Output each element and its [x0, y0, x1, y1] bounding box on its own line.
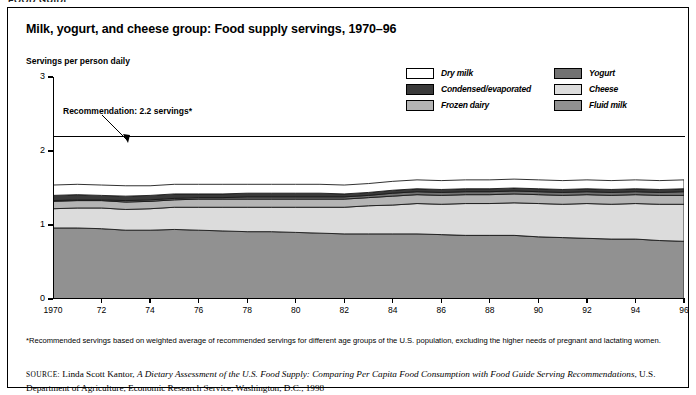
x-tick-1976 — [198, 299, 199, 303]
footnote: *Recommended servings based on weighted … — [26, 335, 676, 346]
x-tick-label-1990: 90 — [518, 305, 558, 315]
x-tick-1994 — [635, 299, 636, 303]
x-tick-label-1984: 84 — [373, 305, 413, 315]
recommendation-line — [53, 136, 685, 137]
source-author: Linda Scott Kantor, — [60, 369, 137, 379]
y-tick-label-2: 2 — [23, 145, 45, 155]
x-tick-1978 — [247, 299, 248, 303]
x-tick-label-1992: 92 — [567, 305, 607, 315]
x-axis-line — [53, 298, 685, 299]
x-tick-1990 — [538, 299, 539, 303]
y-tick-3 — [48, 76, 53, 77]
x-tick-label-1974: 74 — [130, 305, 170, 315]
x-tick-label-1972: 72 — [82, 305, 122, 315]
x-tick-label-1980: 80 — [276, 305, 316, 315]
x-tick-1980 — [295, 299, 296, 303]
x-tick-1986 — [441, 299, 442, 303]
y-tick-label-1: 1 — [23, 219, 45, 229]
x-tick-label-1988: 88 — [470, 305, 510, 315]
x-tick-1974 — [149, 299, 150, 303]
x-tick-1982 — [344, 299, 345, 303]
x-tick-1996 — [683, 299, 684, 303]
x-tick-label-1970: 1970 — [33, 305, 73, 315]
y-tick-label-0: 0 — [23, 293, 45, 303]
x-tick-label-1976: 76 — [179, 305, 219, 315]
x-tick-label-1982: 82 — [324, 305, 364, 315]
x-tick-label-1978: 78 — [227, 305, 267, 315]
x-tick-1972 — [101, 299, 102, 303]
page-title: Milk, yogurt, and cheese group: Food sup… — [26, 22, 396, 36]
source-title: A Dietary Assessment of the U.S. Food Su… — [137, 369, 635, 379]
x-tick-label-1986: 86 — [421, 305, 461, 315]
x-tick-1992 — [586, 299, 587, 303]
y-tick-2 — [48, 150, 53, 151]
x-tick-1988 — [489, 299, 490, 303]
source-prefix: source: — [26, 370, 60, 379]
y-axis-line — [53, 77, 54, 299]
y-tick-1 — [48, 224, 53, 225]
y-axis-title: Servings per person daily — [26, 56, 130, 66]
y-tick-0 — [48, 298, 53, 299]
running-head: FOOD GUIDE — [8, 0, 70, 2]
figure-frame: Milk, yogurt, and cheese group: Food sup… — [7, 7, 689, 388]
x-tick-label-1994: 94 — [615, 305, 655, 315]
recommendation-arrow-icon — [100, 113, 140, 145]
x-tick-1984 — [392, 299, 393, 303]
source-note: source: Linda Scott Kantor, A Dietary As… — [26, 368, 678, 395]
x-tick-label-1996: 96 — [664, 305, 696, 315]
y-tick-label-3: 3 — [23, 71, 45, 81]
